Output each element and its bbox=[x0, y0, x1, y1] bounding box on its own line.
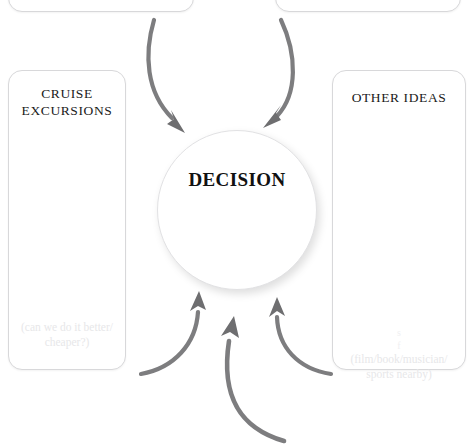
arrow-top-left-to-center bbox=[148, 20, 185, 133]
arrow-bottom-left-to-center bbox=[141, 291, 206, 374]
arrow-bottom-center-to-center bbox=[221, 316, 284, 441]
card-right-note-main: (film/book/musician/ sports nearby) bbox=[350, 353, 447, 380]
card-right-title: OTHER IDEAS bbox=[333, 89, 465, 106]
card-left-note: (can we do it better/ cheaper?) bbox=[9, 320, 125, 350]
decision-circle[interactable]: DECISION bbox=[157, 130, 317, 290]
card-cruise-excursions[interactable]: CRUISE EXCURSIONS (can we do it better/ … bbox=[8, 70, 126, 370]
card-left-title: CRUISE EXCURSIONS bbox=[9, 85, 125, 119]
card-top-right[interactable] bbox=[275, 0, 461, 12]
arrow-top-right-to-center bbox=[263, 20, 293, 128]
arrow-bottom-right-to-center bbox=[269, 297, 331, 374]
card-top-left[interactable] bbox=[8, 0, 194, 12]
diagram-canvas: CRUISE EXCURSIONS (can we do it better/ … bbox=[0, 0, 475, 446]
card-right-note-top: s f bbox=[333, 326, 465, 352]
card-other-ideas[interactable]: OTHER IDEAS s f(film/book/musician/ spor… bbox=[332, 70, 466, 370]
decision-label: DECISION bbox=[158, 169, 316, 191]
card-right-note: s f(film/book/musician/ sports nearby) bbox=[333, 311, 465, 382]
